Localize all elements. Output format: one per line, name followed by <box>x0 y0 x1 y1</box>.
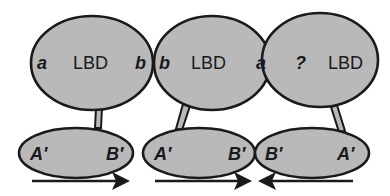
lbd-site-left-unit-1: a <box>37 53 47 73</box>
lbd-site-left-unit-3: ? <box>295 53 306 73</box>
lbd-label-unit-3: LBD <box>328 53 363 73</box>
lbd-label-unit-1: LBD <box>73 53 108 73</box>
dna-binding-domains <box>19 128 369 178</box>
dbd-site-left-unit-2: A′ <box>153 144 172 164</box>
stalk-unit-3 <box>331 105 345 132</box>
lbd-site-right-unit-1: b <box>135 53 146 73</box>
lbd-site-left-unit-2: b <box>159 53 170 73</box>
dbd-site-right-unit-2: B′ <box>228 144 246 164</box>
dbd-site-right-unit-3: A′ <box>336 144 355 164</box>
lbd-label-unit-2: LBD <box>191 53 226 73</box>
lbd-site-right-unit-2: a <box>256 53 266 73</box>
dbd-site-left-unit-1: A′ <box>29 144 48 164</box>
stalk-unit-2 <box>176 104 190 130</box>
dbd-site-left-unit-3: B′ <box>265 144 283 164</box>
dbd-site-right-unit-1: B′ <box>106 144 124 164</box>
lbd-dimerization-diagram: a LBD b b LBD a ? LBD A′ B′ A′ B′ B′ A′ <box>0 0 390 196</box>
